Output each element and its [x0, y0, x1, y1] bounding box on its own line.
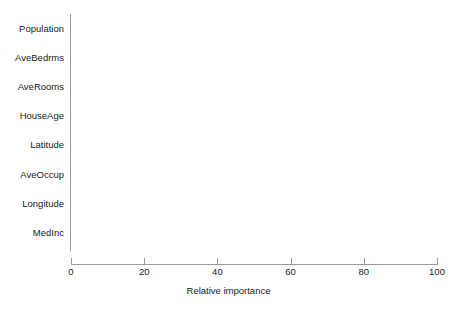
x-tick-label-60: 60 — [285, 266, 296, 278]
bar-row — [71, 16, 121, 41]
y-tick-label-avebedrms: AveBedrms — [0, 52, 64, 64]
bar-row — [71, 74, 153, 99]
x-tick-label-0: 0 — [68, 266, 73, 278]
x-tick-20 — [144, 258, 145, 264]
bar-row — [71, 133, 253, 158]
y-tick-label-latitude: Latitude — [0, 139, 64, 151]
x-tick-label-20: 20 — [139, 266, 150, 278]
y-tick-label-population: Population — [0, 23, 64, 35]
y-tick-label-houseage: HouseAge — [0, 110, 64, 122]
bar-row — [71, 104, 171, 129]
y-tick-label-averooms: AveRooms — [0, 81, 64, 93]
bar-chart-figure: PopulationAveBedrmsAveRoomsHouseAgeLatit… — [0, 0, 457, 310]
x-tick-label-80: 80 — [359, 266, 370, 278]
y-tick-label-medinc: MedInc — [0, 227, 64, 239]
y-tick-label-longitude: Longitude — [0, 198, 64, 210]
bar-row — [71, 191, 271, 216]
x-tick-label-40: 40 — [212, 266, 223, 278]
x-axis-label: Relative importance — [0, 285, 457, 297]
y-tick-label-aveoccup: AveOccup — [0, 169, 64, 181]
x-tick-80 — [364, 258, 365, 264]
x-axis-spine — [71, 264, 438, 265]
bar-row — [71, 45, 128, 70]
bar-row — [71, 162, 267, 187]
x-tick-40 — [217, 258, 218, 264]
x-tick-60 — [291, 258, 292, 264]
x-tick-100 — [437, 258, 438, 264]
x-tick-label-100: 100 — [429, 266, 445, 278]
bar-row — [71, 220, 437, 245]
x-tick-0 — [71, 258, 72, 264]
